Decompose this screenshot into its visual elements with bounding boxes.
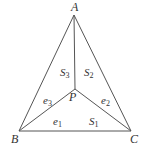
triangle-diagram: A B C P S3 S2 S1 e3 e2 e1	[0, 0, 146, 155]
vertex-label-b: B	[11, 132, 19, 146]
edge-label-e2: e2	[101, 94, 110, 108]
vertex-label-a: A	[70, 0, 79, 14]
segment-pa	[74, 15, 75, 89]
edge-label-e3: e3	[43, 94, 52, 108]
area-label-s3: S3	[60, 66, 70, 80]
vertex-label-c: C	[130, 132, 139, 146]
area-label-s2: S2	[84, 66, 94, 80]
point-label-p: P	[68, 90, 77, 104]
area-label-s1: S1	[89, 115, 99, 129]
edge-label-e1: e1	[53, 115, 62, 129]
edge-ca	[74, 15, 131, 131]
